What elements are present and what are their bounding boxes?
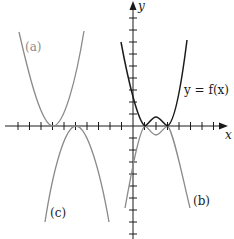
y-axis-arrow-icon <box>130 1 137 10</box>
x-axis <box>5 122 228 130</box>
curve-f-label: y = f(x) <box>183 83 229 97</box>
curve-b-label: (b) <box>193 194 210 208</box>
curve-f <box>121 40 187 126</box>
curve-a-label: (a) <box>25 40 42 54</box>
y-axis-label: y <box>137 0 145 13</box>
x-axis-label: x <box>225 128 232 142</box>
graph-figure: y x y = f(x) (a) (b) (c) <box>0 0 234 239</box>
y-axis <box>129 1 137 239</box>
curve-c-label: (c) <box>50 206 66 220</box>
